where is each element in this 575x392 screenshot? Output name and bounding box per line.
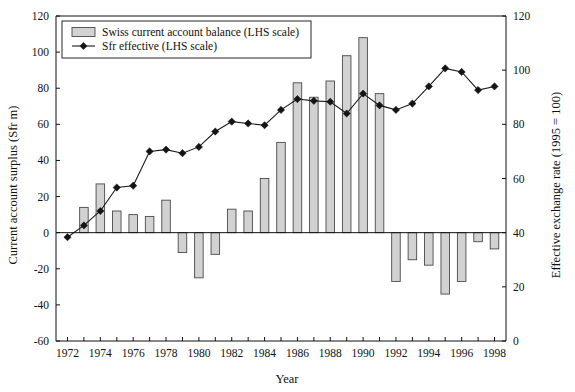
x-tick-label-1996: 1996	[450, 347, 473, 359]
marker-1998	[491, 83, 498, 90]
y2-tick-label-60: 60	[513, 173, 525, 185]
bar-1989	[342, 56, 351, 233]
marker-1992	[392, 106, 399, 113]
marker-1978	[162, 146, 169, 153]
bar-1990	[359, 38, 368, 233]
marker-1979	[179, 150, 186, 157]
marker-1977	[146, 148, 153, 155]
y2-tick-label-100: 100	[513, 64, 531, 76]
chart-container: 1972197419761978198019821984198619881990…	[0, 0, 575, 392]
x-tick-label-1990: 1990	[352, 347, 375, 359]
bar-1984	[260, 179, 269, 233]
chart-legend: Swiss current account balance (LHS scale…	[62, 21, 311, 58]
x-tick-label-1994: 1994	[417, 347, 440, 359]
bar-1992	[392, 233, 401, 282]
bar-1993	[408, 233, 417, 260]
left-axis-title: Current account surplus (Sfr m)	[6, 106, 20, 265]
bar-1981	[211, 233, 220, 255]
bar-1982	[227, 209, 236, 232]
bar-1995	[441, 233, 450, 294]
marker-1982	[228, 118, 235, 125]
y-tick-label--40: -40	[34, 299, 50, 311]
x-tick-label-1992: 1992	[384, 347, 407, 359]
marker-1972	[64, 234, 71, 241]
bar-1979	[178, 233, 187, 253]
bar-1991	[375, 94, 384, 233]
x-tick-label-1976: 1976	[122, 347, 145, 359]
marker-1976	[130, 182, 137, 189]
bar-1996	[457, 233, 466, 282]
x-tick-label-1988: 1988	[319, 347, 342, 359]
y-tick-label-0: 0	[43, 227, 49, 239]
y-tick-label-40: 40	[38, 154, 50, 166]
legend-bar-swatch	[72, 28, 95, 37]
bar-1987	[310, 97, 319, 232]
y-tick-label--60: -60	[34, 335, 50, 347]
right-axis-title: Effective exchange rate (1995 = 100)	[549, 92, 563, 278]
bar-1975	[113, 211, 122, 233]
y-tick-label-100: 100	[32, 46, 50, 58]
x-tick-label-1982: 1982	[220, 347, 243, 359]
bar-1980	[195, 233, 204, 278]
y2-tick-label-80: 80	[513, 118, 525, 130]
bar-1985	[277, 142, 286, 232]
x-tick-label-1974: 1974	[89, 347, 112, 359]
bar-1976	[129, 215, 138, 233]
bar-1994	[425, 233, 434, 265]
bar-1978	[162, 200, 171, 233]
bar-1997	[474, 233, 483, 242]
bar-1977	[145, 216, 154, 232]
marker-1983	[245, 120, 252, 127]
y-tick-label-60: 60	[38, 118, 50, 130]
x-tick-label-1978: 1978	[155, 347, 178, 359]
x-axis-ticks: 1972197419761978198019821984198619881990…	[56, 337, 506, 359]
y2-tick-label-0: 0	[513, 335, 519, 347]
y-tick-label-120: 120	[32, 10, 50, 22]
y-tick-label-20: 20	[38, 191, 50, 203]
bar-1983	[244, 211, 253, 233]
y2-tick-label-40: 40	[513, 227, 525, 239]
x-tick-label-1980: 1980	[187, 347, 210, 359]
bottom-axis-title: Year	[275, 372, 299, 386]
marker-1975	[113, 184, 120, 191]
x-tick-label-1998: 1998	[483, 347, 506, 359]
x-tick-label-1984: 1984	[253, 347, 276, 359]
x-tick-label-1972: 1972	[56, 347, 79, 359]
x-tick-label-1986: 1986	[286, 347, 309, 359]
chart-svg: 1972197419761978198019821984198619881990…	[0, 0, 575, 392]
y2-tick-label-120: 120	[513, 10, 531, 22]
legend-line-label: Sfr effective (LHS scale)	[102, 40, 217, 53]
y-tick-label-80: 80	[38, 82, 50, 94]
bar-1998	[490, 233, 499, 249]
y-tick-label--20: -20	[34, 263, 50, 275]
bar-1986	[293, 83, 302, 233]
legend-bar-label: Swiss current account balance (LHS scale…	[102, 26, 299, 39]
y2-tick-label-20: 20	[513, 281, 525, 293]
